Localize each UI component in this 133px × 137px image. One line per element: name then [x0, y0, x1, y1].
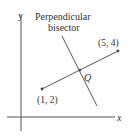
- y-axis-label: y: [18, 10, 23, 21]
- point-b: [117, 50, 120, 53]
- point-a-label: (1, 2): [37, 95, 58, 106]
- midpoint-q: [79, 69, 81, 71]
- perpendicular-bisector-diagram: y x Perpendicular bisector (5, 4) (1, 2)…: [0, 0, 133, 137]
- point-a: [41, 88, 44, 91]
- point-b-label: (5, 4): [98, 38, 119, 49]
- title-line-2: bisector: [48, 22, 80, 33]
- title-line-1: Perpendicular: [35, 11, 91, 22]
- x-axis-label: x: [116, 112, 122, 123]
- midpoint-label: Q: [84, 72, 92, 83]
